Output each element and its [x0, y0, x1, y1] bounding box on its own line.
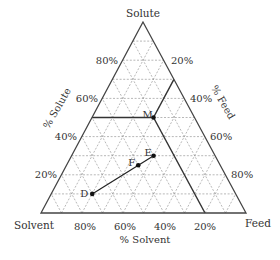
point-d: [90, 192, 95, 197]
vertex-label-solvent: Solvent: [14, 219, 55, 231]
point-f: [136, 163, 141, 168]
bottom-tick-40: 40%: [154, 221, 176, 232]
left-tick-80: 80%: [96, 55, 118, 66]
data-points: MEFD: [80, 109, 156, 199]
bottom-tick-20: 20%: [194, 221, 216, 232]
grid-lines: [51, 41, 236, 213]
right-tick-20: 20%: [171, 55, 193, 66]
vertex-label-feed: Feed: [245, 217, 271, 229]
vertex-label-solute: Solute: [126, 7, 160, 19]
bottom-tick-80: 80%: [74, 221, 96, 232]
left-tick-20: 20%: [35, 169, 57, 180]
point-label-f: F: [128, 157, 135, 168]
bottom-tick-60: 60%: [114, 221, 136, 232]
left-tick-60: 60%: [76, 93, 98, 104]
axis-title-solvent: % Solvent: [120, 234, 171, 245]
right-tick-80: 80%: [231, 169, 253, 180]
m-solvent-line: [154, 118, 206, 214]
axis-title-solute: % Solute: [41, 86, 73, 131]
ternary-diagram: MEFD Solute Solvent Feed 20% 40% 60% 80%…: [0, 0, 280, 260]
axis-title-feed: % Feed: [209, 83, 237, 121]
point-label-d: D: [80, 188, 88, 199]
left-tick-40: 40%: [55, 131, 77, 142]
right-tick-60: 60%: [210, 131, 232, 142]
point-label-e: E: [145, 147, 152, 158]
point-e: [151, 153, 156, 158]
right-tick-40: 40%: [190, 93, 212, 104]
point-label-m: M: [143, 109, 153, 120]
